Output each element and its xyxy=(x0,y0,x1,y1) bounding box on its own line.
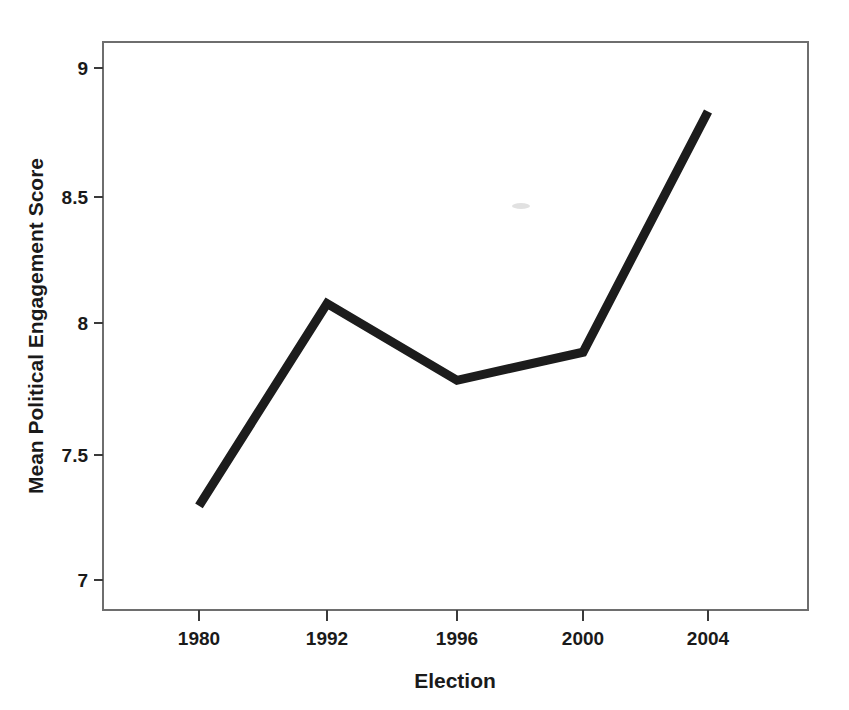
x-tick-label-1: 1992 xyxy=(306,628,348,649)
x-tick-label-4: 2004 xyxy=(687,628,730,649)
y-tick-label-3: 7.5 xyxy=(62,445,89,466)
y-axis-ticks xyxy=(94,68,103,580)
y-axis-title: Mean Political Engagement Score xyxy=(24,158,47,494)
y-axis-tick-labels: 9 8.5 8 7.5 7 xyxy=(62,58,89,591)
y-tick-label-1: 8.5 xyxy=(62,187,89,208)
y-tick-label-4: 7 xyxy=(77,570,88,591)
x-axis-tick-labels: 1980 1992 1996 2000 2004 xyxy=(178,628,730,649)
x-tick-label-0: 1980 xyxy=(178,628,220,649)
y-tick-label-0: 9 xyxy=(77,58,88,79)
data-series-line xyxy=(199,112,708,506)
x-axis-ticks xyxy=(199,610,708,621)
scan-smudge-artifact xyxy=(512,203,530,209)
x-axis-title: Election xyxy=(414,669,496,692)
x-tick-label-2: 1996 xyxy=(436,628,478,649)
x-tick-label-3: 2000 xyxy=(562,628,604,649)
line-chart-canvas: 9 8.5 8 7.5 7 1980 1992 1996 2000 2004 E… xyxy=(0,0,849,710)
y-tick-label-2: 8 xyxy=(77,313,88,334)
chart-figure: 9 8.5 8 7.5 7 1980 1992 1996 2000 2004 E… xyxy=(0,0,849,710)
